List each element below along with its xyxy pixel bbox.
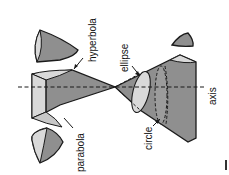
label-ellipse: ellipse (119, 43, 130, 72)
label-axis: axis (207, 87, 218, 105)
parabola-piece (32, 128, 63, 163)
conic-sections-diagram: hyperbola parabola ellipse circle axis (0, 0, 229, 175)
diagram-canvas: hyperbola parabola ellipse circle axis (0, 0, 229, 175)
top-right-piece (172, 33, 193, 46)
label-hyperbola: hyperbola (87, 18, 98, 62)
hyperbola-piece (35, 30, 78, 62)
label-parabola: parabola (75, 133, 86, 172)
left-cone (32, 70, 115, 127)
label-circle: circle (143, 126, 154, 150)
edge-mark (225, 160, 227, 170)
